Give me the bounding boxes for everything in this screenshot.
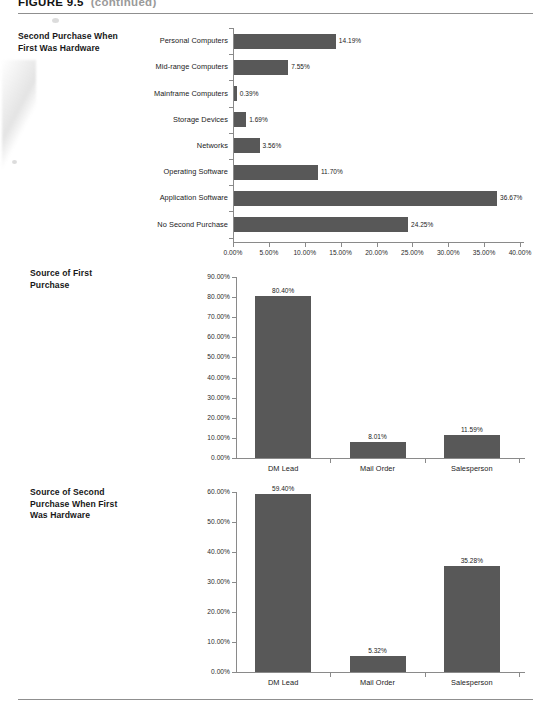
chart-title-line: Purchase [30,280,70,290]
chart1-x-tick [377,243,378,247]
chart2-y-axis [236,277,237,459]
bar [444,566,500,672]
value-label: 11.59% [450,426,494,433]
chart2-x-tick [330,459,331,463]
chart1-y-tick [229,107,233,108]
chart3-y-tick-label: 40.00% [192,548,230,555]
chart2-y-tick-label: 90.00% [192,273,230,280]
chart3-x-axis [236,672,525,673]
category-label: Networks [85,141,228,150]
category-label: Salesperson [427,678,517,687]
x-tick-label: 35.00% [466,249,502,256]
chart2-y-tick-label: 60.00% [192,333,230,340]
category-label: Operating Software [85,167,228,176]
chart3-y-axis [236,492,237,673]
value-label: 14.19% [339,37,361,44]
chart2-y-tick [232,317,236,318]
value-label: 24.25% [411,221,433,228]
chart-title: Source of First Purchase [30,268,180,291]
chart2-y-tick [232,277,236,278]
chart1-x-tick [412,243,413,247]
chart-title-line: Source of First [30,268,92,278]
value-label: 11.70% [321,168,343,175]
bar [255,494,311,672]
category-label: Mid-range Computers [85,62,228,71]
value-label: 1.69% [249,116,268,123]
chart2-x-tick [519,459,520,463]
chart2-y-tick [232,458,236,459]
chart2-y-tick [232,438,236,439]
chart2-x-axis [236,458,525,459]
x-tick-label: 0.00% [215,249,251,256]
chart2-x-tick [425,459,426,463]
chart2-y-tick-label: 40.00% [192,374,230,381]
value-label: 35.28% [450,557,494,564]
value-label: 8.01% [356,433,400,440]
chart2-y-tick [232,378,236,379]
x-tick-label: 25.00% [394,249,430,256]
chart1-y-tick [229,80,233,81]
bar [234,34,336,49]
category-label: Storage Devices [85,115,228,124]
chart1-y-tick [229,28,233,29]
bottom-divider-rule [18,699,533,700]
category-label: Mail Order [333,464,423,473]
bar [234,217,408,232]
bar [234,165,318,180]
chart2-y-tick [232,398,236,399]
bar [255,296,311,458]
bar [350,656,406,672]
x-tick-label: 30.00% [430,249,466,256]
chart2-y-tick-label: 0.00% [192,454,230,461]
chart-title-line: Purchase When First [30,499,117,509]
chart2-y-tick-label: 80.00% [192,293,230,300]
value-label: 5.32% [356,647,400,654]
chart3-y-tick [232,612,236,613]
x-tick-label: 40.00% [502,249,538,256]
value-label: 3.56% [263,142,282,149]
chart1-y-tick [229,238,233,239]
chart3-x-tick [519,673,520,677]
chart2-y-tick-label: 20.00% [192,414,230,421]
chart2-y-tick [232,418,236,419]
chart1-x-tick [269,243,270,247]
x-tick-label: 20.00% [359,249,395,256]
x-tick-label: 15.00% [323,249,359,256]
bar [350,442,406,458]
chart1-x-tick [305,243,306,247]
chart3-y-tick [232,672,236,673]
chart2-y-tick-label: 10.00% [192,434,230,441]
chart1-y-tick [229,133,233,134]
chart2-y-tick-label: 30.00% [192,394,230,401]
value-label: 80.40% [261,287,305,294]
chart2-y-tick-label: 50.00% [192,353,230,360]
value-label: 7.55% [291,63,310,70]
chart3-y-tick-label: 20.00% [192,608,230,615]
figure-page: FIGURE 9.5(continued) Second Purchase Wh… [0,0,551,720]
chart1-x-tick [448,243,449,247]
chart1-y-tick [229,211,233,212]
bar [234,112,246,127]
category-label: DM Lead [238,678,328,687]
bar [234,138,260,153]
chart-title-line: Was Hardware [30,510,90,520]
chart3-y-tick-label: 50.00% [192,518,230,525]
chart3-y-tick [232,642,236,643]
chart3-y-tick [232,582,236,583]
chart2-y-tick [232,297,236,298]
chart1-y-tick [229,159,233,160]
value-label: 36.67% [500,194,522,201]
category-label: DM Lead [238,464,328,473]
chart1-x-axis [233,242,524,243]
chart2-y-tick [232,357,236,358]
category-label: Application Software [85,193,228,202]
chart2-y-tick-label: 70.00% [192,313,230,320]
category-label: Personal Computers [85,36,228,45]
chart3-y-tick-label: 0.00% [192,668,230,675]
value-label: 59.40% [261,485,305,492]
category-label: Mainframe Computers [85,89,228,98]
chart3-x-tick [330,673,331,677]
bar [234,86,237,101]
value-label: 0.39% [240,90,259,97]
bar [234,60,288,75]
